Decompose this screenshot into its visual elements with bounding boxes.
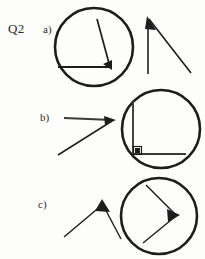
figure-c-plain	[64, 199, 121, 239]
vertex-marker-a-triangle	[103, 60, 112, 70]
angle-ray-c2-lower	[143, 216, 176, 243]
angle-ray-c-left	[64, 205, 102, 237]
angle-ray-b-horizontal	[64, 118, 112, 120]
part-label-b: b)	[40, 112, 49, 123]
figure-a-circled	[55, 8, 133, 86]
angle-ray-a2-slant	[149, 19, 191, 73]
figures-canvas	[0, 0, 205, 259]
vertex-marker-a2-triangle	[145, 16, 156, 30]
angle-ray-a-slant	[97, 19, 110, 67]
circle-outline-a	[55, 8, 133, 86]
angle-ray-c-right	[103, 205, 121, 239]
figure-b-circled	[122, 90, 200, 168]
vertex-marker-b-triangle	[104, 116, 116, 125]
vertex-marker-c-triangle	[95, 199, 110, 212]
vertex-marker-c2-triangle	[167, 209, 180, 222]
angle-ray-c2-upper	[146, 185, 176, 215]
circle-outline-b	[122, 90, 200, 168]
right-angle-square-marker-b	[134, 147, 142, 155]
part-label-a: a)	[43, 24, 52, 35]
figure-a-plain	[145, 16, 191, 74]
part-label-c: c)	[38, 199, 47, 210]
angle-ray-b-slant	[58, 121, 112, 155]
figure-c-circled	[121, 178, 197, 254]
worksheet-page: Q2 a) b) c)	[0, 0, 205, 259]
circle-outline-c	[121, 178, 197, 254]
right-angle-square-fill-b	[135, 148, 140, 153]
figure-b-plain	[58, 116, 116, 155]
question-label: Q2	[8, 22, 25, 35]
